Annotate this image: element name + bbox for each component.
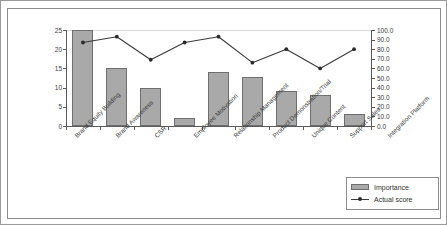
screenshot-outer-frame: 0510152025 0.010.020.030.040.050.060.070…	[0, 0, 447, 225]
legend-label-actual-score: Actual score	[374, 195, 413, 204]
category-label-8: Integration Platform	[386, 95, 430, 139]
category-label-0: Brand Equity Building	[73, 91, 121, 139]
chart-legend: Importance Actual score	[346, 177, 439, 210]
legend-bar-swatch-icon	[351, 184, 369, 190]
legend-item-importance: Importance	[351, 181, 434, 193]
legend-line-swatch-icon	[351, 196, 369, 203]
legend-item-actual-score: Actual score	[351, 193, 434, 205]
category-label-1: Brand Awareness	[114, 99, 154, 139]
chart-container: 0510152025 0.010.020.030.040.050.060.070…	[7, 8, 441, 219]
category-label-7: Support Sales	[348, 106, 381, 139]
category-label-3: Employee Motivation	[192, 92, 239, 139]
legend-label-importance: Importance	[374, 183, 409, 192]
category-label-2: CSR	[153, 125, 167, 139]
category-label-6: Unique Content	[310, 103, 346, 139]
